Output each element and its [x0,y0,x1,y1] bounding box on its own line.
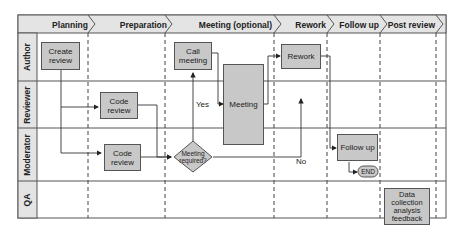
node-follow-up: Follow up [337,134,378,161]
node-meeting: Meeting [223,64,264,145]
lane-reviewer: Reviewer [22,80,32,130]
edge-label-yes: Yes [196,100,209,109]
node-decision-meeting-required: Meeting required? [178,148,208,166]
node-code-review-reviewer: Code review [100,92,138,119]
lane-qa: QA [22,175,32,225]
edge-label-no: No [296,157,306,166]
node-code-review-moderator: Code review [104,144,141,171]
phase-preparation: Preparation [100,20,167,30]
node-rework: Rework [281,44,321,69]
node-qa-feedback: Data collection analysis feedback [384,188,430,225]
node-create-review: Create review [41,42,80,70]
phase-rework: Rework [280,20,326,30]
lane-author: Author [22,32,32,82]
phase-meeting: Meeting (optional) [170,20,272,30]
lane-moderator: Moderator [22,130,32,180]
phase-planning: Planning [40,20,88,30]
node-end: END [358,166,378,177]
node-call-meeting: Call meeting [174,42,212,70]
phase-post-review: Post review [382,20,435,30]
phase-follow-up: Follow up [330,20,379,30]
